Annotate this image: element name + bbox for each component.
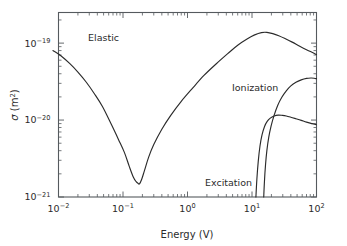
series-label-excitation: Excitation	[205, 177, 252, 188]
chart-svg: 10−210−1100101102 10−1910−2010−21 Energy…	[0, 0, 347, 246]
y-axis-title: σ (m2)	[9, 89, 20, 121]
series-label-elastic: Elastic	[88, 32, 119, 43]
cross-section-chart-figure: 10−210−1100101102 10−1910−2010−21 Energy…	[0, 0, 347, 246]
y-axis-title-group: σ (m2)	[9, 89, 20, 121]
x-axis-title: Energy (V)	[161, 229, 214, 240]
series-label-ionization: Ionization	[232, 82, 278, 93]
